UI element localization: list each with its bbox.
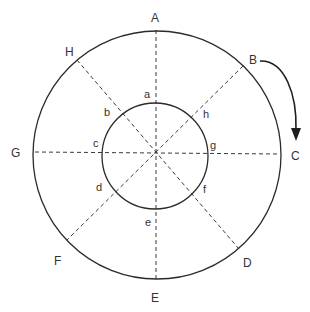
label-e: e xyxy=(145,216,151,228)
outer-circle xyxy=(33,31,281,279)
label-D: D xyxy=(243,256,252,270)
concentric-circles-diagram: A B C D E F G H a b c d e f g h xyxy=(0,0,310,312)
label-H: H xyxy=(65,45,74,59)
inner-labels: a b c d e f g h xyxy=(93,88,216,228)
label-f: f xyxy=(203,183,207,195)
label-G: G xyxy=(11,146,20,160)
label-E: E xyxy=(151,291,159,305)
label-a: a xyxy=(144,88,151,100)
label-B: B xyxy=(249,53,257,67)
label-b: b xyxy=(104,106,110,118)
label-C: C xyxy=(291,149,300,163)
label-d: d xyxy=(96,181,102,193)
inner-circle xyxy=(102,103,208,209)
label-h: h xyxy=(203,108,209,120)
label-F: F xyxy=(54,254,61,268)
spoke-H-D xyxy=(77,60,239,249)
label-g: g xyxy=(210,139,216,151)
label-A: A xyxy=(151,11,159,25)
arrowhead-icon xyxy=(291,128,301,141)
rotation-arrow xyxy=(260,61,301,141)
spoke-G-C xyxy=(35,152,280,154)
label-c: c xyxy=(93,137,99,149)
